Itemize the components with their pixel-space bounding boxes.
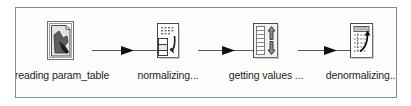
node-icon-wrap — [224, 21, 308, 65]
table-normalize-icon[interactable] — [153, 21, 183, 65]
node-icon-wrap — [126, 21, 210, 65]
table-denormalize-icon[interactable] — [346, 21, 378, 65]
node-getting-values[interactable]: getting values ... — [224, 21, 308, 81]
node-icon-wrap — [320, 21, 397, 65]
node-normalizing[interactable]: normalizing... — [126, 21, 210, 81]
node-denormalizing[interactable]: denormalizing... — [320, 21, 397, 81]
node-label-denormalizing: denormalizing... — [320, 69, 397, 81]
node-label-normalizing: normalizing... — [126, 69, 210, 81]
list-updown-arrows-icon[interactable] — [250, 21, 282, 65]
node-label-getting-values: getting values ... — [210, 69, 322, 81]
node-label-reading-param-table: reading param_table — [15, 69, 118, 81]
document-read-icon[interactable] — [47, 21, 77, 65]
workflow-canvas[interactable]: reading param_table — [15, 7, 397, 98]
node-reading-param-table[interactable]: reading param_table — [20, 21, 104, 81]
node-icon-wrap — [20, 21, 104, 65]
